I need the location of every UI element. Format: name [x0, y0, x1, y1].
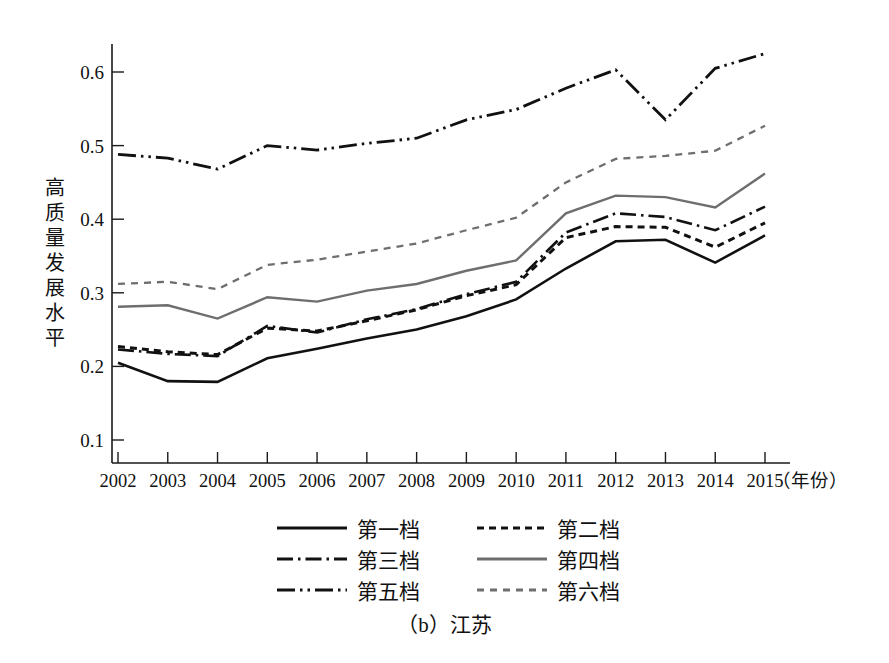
legend-line-icon: [276, 583, 348, 597]
legend-label: 第六档: [557, 575, 620, 605]
legend-label: 第一档: [357, 513, 420, 543]
x-tick-label: 2013: [647, 471, 684, 491]
chart-page: 0.10.20.30.40.50.6 200220032004200520062…: [0, 0, 889, 663]
y-axis-title-char: 展: [38, 276, 72, 301]
legend-swatch-icon: [276, 583, 348, 597]
x-tick-label: 2005: [249, 471, 286, 491]
legend-swatch-icon: [276, 552, 348, 566]
x-tick-label: 2014: [697, 471, 734, 491]
x-tick-label: 2002: [100, 471, 137, 491]
y-tick-label: 0.3: [80, 283, 104, 304]
legend-line-icon: [276, 521, 348, 535]
legend-line-icon: [276, 552, 348, 566]
x-tick-label: 2011: [548, 471, 584, 491]
series-lines: [118, 54, 765, 382]
legend-item-第二档[interactable]: 第二档: [476, 513, 676, 543]
legend-label: 第四档: [557, 544, 620, 574]
legend-label: 第五档: [357, 575, 420, 605]
legend-label: 第二档: [557, 513, 620, 543]
legend-swatch-icon: [476, 521, 548, 535]
y-axis-title-char: 质: [38, 201, 72, 226]
series-line: [118, 126, 765, 289]
x-tick-label: 2010: [498, 471, 535, 491]
line-chart-svg: 0.10.20.30.40.50.6 200220032004200520062…: [0, 0, 889, 500]
y-tick-label: 0.2: [80, 356, 104, 377]
x-tick-label: 2007: [348, 471, 385, 491]
legend-item-第三档[interactable]: 第三档: [276, 544, 476, 574]
legend-line-icon: [476, 552, 548, 566]
x-tick-label: 2009: [448, 471, 485, 491]
x-tick-label: 2012: [597, 471, 634, 491]
x-tick-label: 2003: [149, 471, 186, 491]
series-line: [118, 174, 765, 319]
legend-swatch-icon: [476, 552, 548, 566]
y-tick-label: 0.4: [80, 209, 104, 230]
legend-row: 第五档第六档: [276, 574, 676, 605]
y-axis-title-char: 平: [38, 326, 72, 351]
legend-item-第五档[interactable]: 第五档: [276, 575, 476, 605]
series-line: [118, 54, 765, 170]
legend-line-icon: [476, 583, 548, 597]
y-axis-title-char: 水: [38, 301, 72, 326]
figure-caption: （b）江苏: [0, 608, 889, 638]
y-axis-ticks: 0.10.20.30.40.50.6: [80, 62, 124, 451]
legend-line-icon: [476, 521, 548, 535]
y-tick-label: 0.5: [80, 136, 104, 157]
x-axis-unit-label: （年份）: [772, 471, 848, 491]
x-tick-label: 2006: [299, 471, 336, 491]
y-axis-title-char: 高: [38, 176, 72, 201]
y-axis-title: 高质量发展水平: [38, 176, 72, 351]
legend-row: 第三档第四档: [276, 543, 676, 574]
series-line: [118, 235, 765, 381]
legend-row: 第一档第二档: [276, 512, 676, 543]
chart-legend: 第一档第二档第三档第四档第五档第六档: [276, 512, 676, 605]
legend-label: 第三档: [357, 544, 420, 574]
x-axis-ticks: [118, 452, 765, 463]
y-tick-label: 0.6: [80, 62, 104, 83]
y-axis-title-char: 量: [38, 226, 72, 251]
legend-swatch-icon: [476, 583, 548, 597]
plot-area: 0.10.20.30.40.50.6 200220032004200520062…: [0, 0, 889, 500]
x-tick-label: 2008: [398, 471, 435, 491]
legend-item-第四档[interactable]: 第四档: [476, 544, 676, 574]
legend-item-第六档[interactable]: 第六档: [476, 575, 676, 605]
y-tick-label: 0.1: [80, 430, 104, 451]
x-axis-labels: 2002200320042005200620072008200920102011…: [100, 471, 784, 491]
legend-swatch-icon: [276, 521, 348, 535]
y-axis-title-char: 发: [38, 251, 72, 276]
legend-item-第一档[interactable]: 第一档: [276, 513, 476, 543]
x-tick-label: 2004: [199, 471, 236, 491]
